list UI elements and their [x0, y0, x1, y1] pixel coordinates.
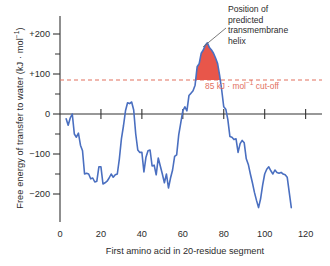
y-tick-label-100: +100 [29, 69, 50, 79]
hydropathy-plot-figure: Free energy of transfer to water (kJ · m… [0, 0, 330, 266]
y-tick-label-0: 0 [45, 109, 50, 119]
y-tick-label-200: +200 [29, 29, 50, 39]
annotation-line-1: predicted [228, 15, 328, 26]
hydropathy-line-series [66, 43, 291, 208]
x-tick-label-40: 40 [137, 229, 147, 239]
y-axis [53, 16, 60, 222]
y-tick-label--200: −200 [29, 189, 50, 199]
x-tick-label-100: 100 [257, 229, 272, 239]
x-tick-label-80: 80 [219, 229, 229, 239]
x-tick-label-20: 20 [96, 229, 106, 239]
annotation-line-2: transmembrane [228, 25, 328, 36]
y-tick-label--100: −100 [29, 149, 50, 159]
x-tick-label-60: 60 [178, 229, 188, 239]
annotation-leader-line [203, 28, 226, 47]
cutoff-label-text: 85 kJ · mol−1 cut-off [205, 81, 279, 91]
annotation-line-3: helix [228, 36, 328, 47]
annotation-line-0: Position of [228, 4, 328, 15]
x-axis [60, 109, 322, 119]
annotation-transmembrane-helix: Position of predicted transmembrane heli… [228, 4, 328, 46]
x-tick-label-120: 120 [298, 229, 313, 239]
x-axis-label: First amino acid in 20-residue segment [40, 246, 330, 256]
tick-labels: −200−1000+100+200020406080100120 [29, 29, 313, 239]
cutoff-label: 85 kJ · mol−1 cut-off [205, 79, 279, 91]
x-tick-label-0: 0 [57, 229, 62, 239]
